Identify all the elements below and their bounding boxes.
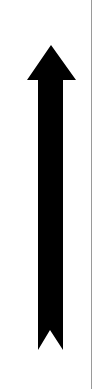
right-edge-divider [91, 0, 92, 389]
up-arrow-icon [0, 0, 93, 389]
arrow-graphic-canvas [0, 0, 93, 389]
arrow-shape [27, 45, 76, 350]
